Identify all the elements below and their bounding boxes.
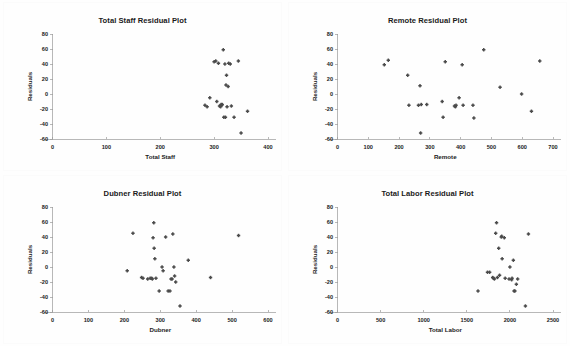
- x-tick-label: 100: [102, 144, 111, 150]
- data-point: [131, 232, 134, 235]
- x-tick-label: 1500: [461, 317, 473, 323]
- data-point: [508, 265, 511, 268]
- data-point: [187, 259, 190, 262]
- data-point: [222, 48, 225, 51]
- y-tick-label: 20: [327, 76, 333, 82]
- x-tick-label: 100: [364, 144, 373, 150]
- data-point: [239, 131, 242, 134]
- data-point: [174, 280, 177, 283]
- data-point: [527, 232, 530, 235]
- x-axis-title: Remote: [434, 153, 457, 160]
- data-point: [538, 59, 541, 62]
- x-tick-label: 1000: [417, 317, 429, 323]
- chart-panel-dubner: Dubner Residual Plot -60-40-200204060800…: [0, 173, 285, 346]
- y-tick-label: 80: [327, 204, 333, 210]
- y-tick-label: 80: [42, 204, 48, 210]
- data-point: [152, 221, 155, 224]
- data-point: [161, 269, 164, 272]
- scatter-plot-remote: -60-40-200204060800100200300400500600700…: [285, 0, 570, 173]
- data-point: [495, 221, 498, 224]
- scatter-plot-total-labor: -60-40-2002040608005001000150020002500To…: [285, 173, 570, 346]
- chart-panel-total-labor: Total Labor Residual Plot -60-40-2002040…: [285, 173, 570, 346]
- y-tick-label: -60: [40, 309, 48, 315]
- y-tick-label: 20: [42, 76, 48, 82]
- y-tick-label: 0: [45, 91, 48, 97]
- data-point: [460, 63, 463, 66]
- data-point: [530, 110, 533, 113]
- data-point: [208, 96, 211, 99]
- data-point: [494, 232, 497, 235]
- data-point: [237, 234, 240, 237]
- y-tick-label: -60: [325, 136, 333, 142]
- data-point: [440, 100, 443, 103]
- data-point: [471, 104, 474, 107]
- x-tick-label: 700: [548, 144, 557, 150]
- data-point: [153, 257, 156, 260]
- data-point: [237, 59, 240, 62]
- chart-panel-total-staff: Total Staff Residual Plot -60-40-2002040…: [0, 0, 285, 173]
- data-point: [524, 304, 527, 307]
- x-tick-label: 500: [487, 144, 496, 150]
- y-axis-title: Residuals: [311, 244, 318, 274]
- data-point: [223, 62, 226, 65]
- data-point: [472, 116, 475, 119]
- data-point: [441, 116, 444, 119]
- data-point: [246, 110, 249, 113]
- y-tick-label: 80: [42, 31, 48, 37]
- data-point: [476, 289, 479, 292]
- x-tick-label: 0: [336, 317, 339, 323]
- data-point: [516, 277, 519, 280]
- x-axis-title: Total Staff: [145, 153, 176, 160]
- y-tick-label: 0: [45, 264, 48, 270]
- data-point: [444, 60, 447, 63]
- data-point: [164, 235, 167, 238]
- y-tick-label: -40: [40, 294, 48, 300]
- y-tick-label: -60: [325, 309, 333, 315]
- x-tick-label: 500: [376, 317, 385, 323]
- data-point: [515, 283, 518, 286]
- data-point: [157, 289, 160, 292]
- data-point: [126, 269, 129, 272]
- data-point: [160, 265, 163, 268]
- x-tick-label: 200: [156, 144, 165, 150]
- data-point: [178, 304, 181, 307]
- y-tick-label: -60: [40, 136, 48, 142]
- data-point: [407, 104, 410, 107]
- data-point: [512, 259, 515, 262]
- y-tick-label: 60: [42, 219, 48, 225]
- data-point: [152, 247, 155, 250]
- data-point: [500, 257, 503, 260]
- y-axis-title: Residuals: [311, 71, 318, 101]
- data-point: [232, 116, 235, 119]
- y-tick-label: 20: [327, 249, 333, 255]
- data-point: [383, 63, 386, 66]
- y-tick-label: 60: [327, 46, 333, 52]
- data-point: [498, 274, 501, 277]
- x-tick-label: 0: [51, 317, 54, 323]
- y-tick-label: 40: [327, 61, 333, 67]
- x-tick-label: 200: [394, 144, 403, 150]
- data-point: [225, 105, 228, 108]
- scatter-plot-dubner: -60-40-200204060800100200300400500600Dub…: [0, 173, 285, 346]
- x-tick-label: 2500: [547, 317, 559, 323]
- x-tick-label: 400: [456, 144, 465, 150]
- residual-plots-figure: Total Staff Residual Plot -60-40-2002040…: [0, 0, 570, 346]
- data-point: [497, 247, 500, 250]
- y-tick-label: 0: [330, 91, 333, 97]
- y-tick-label: 80: [327, 31, 333, 37]
- y-tick-label: -20: [325, 106, 333, 112]
- data-point: [151, 236, 154, 239]
- data-point: [498, 86, 501, 89]
- x-tick-label: 300: [156, 317, 165, 323]
- data-point: [209, 276, 212, 279]
- x-tick-label: 200: [120, 317, 129, 323]
- y-axis-title: Residuals: [26, 71, 33, 101]
- x-tick-label: 0: [336, 144, 339, 150]
- x-axis-title: Total Labor: [429, 326, 463, 333]
- x-tick-label: 600: [518, 144, 527, 150]
- data-point: [225, 74, 228, 77]
- data-point: [230, 104, 233, 107]
- chart-panel-remote: Remote Residual Plot -60-40-200204060800…: [285, 0, 570, 173]
- data-point: [496, 276, 499, 279]
- y-tick-label: 40: [42, 61, 48, 67]
